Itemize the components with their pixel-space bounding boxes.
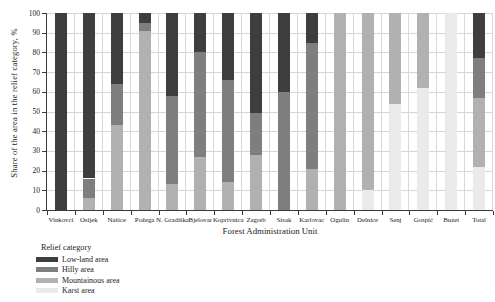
x-tick-label: Total (472, 216, 486, 224)
bar-segment (250, 113, 262, 154)
x-tick-label: Senj (389, 216, 401, 224)
bar-segment (362, 190, 374, 210)
bar-segment (222, 80, 234, 182)
bar-segment (473, 167, 485, 210)
gridline-vertical (492, 13, 493, 210)
x-tick-mark (326, 211, 327, 215)
x-tick-label: Našice (107, 216, 126, 224)
y-axis-line (46, 13, 47, 211)
bar-senj (389, 13, 401, 210)
bar-buzet (445, 13, 457, 210)
y-tick-label: 60 (10, 87, 40, 96)
bar-koprivnica (222, 13, 234, 210)
y-tick-mark (42, 112, 46, 113)
y-tick-mark (42, 131, 46, 132)
x-tick-label: Požega (135, 216, 155, 224)
bar-segment (306, 13, 318, 43)
y-tick-label: 10 (10, 186, 40, 195)
bar-segment (194, 52, 206, 156)
x-tick-label: Vinkovci (48, 216, 73, 224)
x-tick-mark (47, 211, 48, 215)
x-tick-mark (354, 211, 355, 215)
x-tick-mark (270, 211, 271, 215)
gridline-vertical (74, 13, 75, 210)
y-tick-label: 20 (10, 166, 40, 175)
y-tick-mark (42, 190, 46, 191)
bar-osijek (83, 13, 95, 210)
y-tick-mark (42, 92, 46, 93)
legend-row: Mountainous area (36, 275, 120, 286)
bar-segment (445, 13, 457, 210)
bar-segment (166, 184, 178, 210)
gridline-vertical (158, 13, 159, 210)
gridline-vertical (185, 13, 186, 210)
bar-segment (222, 13, 234, 80)
bar-zagreb (250, 13, 262, 210)
gridline-vertical (130, 13, 131, 210)
legend-row: Hilly area (36, 265, 120, 276)
x-tick-label: Koprivnica (213, 216, 244, 224)
x-tick-mark (131, 211, 132, 215)
bar-segment (83, 198, 95, 210)
gridline-vertical (353, 13, 354, 210)
y-tick-label: 100 (10, 9, 40, 18)
x-tick-mark (242, 211, 243, 215)
y-tick-mark (42, 13, 46, 14)
y-tick-label: 50 (10, 107, 40, 116)
y-tick-mark (42, 171, 46, 172)
bar-segment (83, 13, 95, 178)
x-tick-mark (103, 211, 104, 215)
bar-sisak (278, 13, 290, 210)
bar-segment (473, 98, 485, 167)
x-tick-label: N. Gradiška (156, 216, 189, 224)
bar-n-gradi-ka (166, 13, 178, 210)
bar-karlovac (306, 13, 318, 210)
bar-segment (306, 43, 318, 169)
bar-total (473, 13, 485, 210)
gridline-vertical (297, 13, 298, 210)
x-tick-mark (298, 211, 299, 215)
legend-swatch (36, 288, 58, 293)
x-tick-label: Ogulin (330, 216, 349, 224)
bar-segment (334, 13, 346, 210)
legend-label: Mountainous area (62, 276, 120, 285)
bar-po-ega (139, 13, 151, 210)
stacked-bar-chart: Share of the area in the relief category… (0, 0, 495, 302)
bar-segment (473, 13, 485, 58)
y-tick-label: 30 (10, 146, 40, 155)
bar-segment (389, 104, 401, 210)
x-tick-mark (186, 211, 187, 215)
legend-label: Karst area (62, 286, 95, 295)
legend: Relief category Low-land areaHilly areaM… (36, 243, 120, 296)
x-tick-label: Karlovac (299, 216, 324, 224)
gridline-vertical (381, 13, 382, 210)
legend-rows: Low-land areaHilly areaMountainous areaK… (36, 254, 120, 296)
legend-label: Low-land area (62, 255, 108, 264)
y-tick-label: 70 (10, 68, 40, 77)
y-tick-label: 40 (10, 127, 40, 136)
bar-segment (111, 125, 123, 210)
bar-segment (389, 13, 401, 104)
x-tick-label: Bjelovar (189, 216, 212, 224)
legend-row: Karst area (36, 286, 120, 297)
gridline-vertical (436, 13, 437, 210)
y-tick-mark (42, 210, 46, 211)
x-tick-mark (465, 211, 466, 215)
bar-segment (278, 13, 290, 92)
x-tick-label: Delnice (357, 216, 378, 224)
x-tick-label: Zagreb (246, 216, 265, 224)
x-tick-mark (437, 211, 438, 215)
gridline-vertical (325, 13, 326, 210)
bar-delnice (362, 13, 374, 210)
legend-row: Low-land area (36, 254, 120, 265)
bar-ogulin (334, 13, 346, 210)
y-tick-mark (42, 72, 46, 73)
bar-segment (306, 169, 318, 210)
y-tick-label: 90 (10, 28, 40, 37)
x-tick-mark (159, 211, 160, 215)
gridline-vertical (241, 13, 242, 210)
gridline-vertical (464, 13, 465, 210)
plot-area (47, 13, 493, 210)
legend-label: Hilly area (62, 265, 94, 274)
bar-segment (222, 182, 234, 210)
